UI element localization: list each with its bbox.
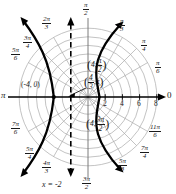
radial-tick-6: 6 [137, 100, 141, 108]
horizontal-axis [8, 93, 166, 100]
radial-tick-4: 4 [120, 100, 124, 108]
angle-label-pi-over-6: π 6 [155, 60, 161, 75]
angle-den: 3 [118, 165, 127, 173]
angle-label-4pi-over-3: 4π 3 [42, 160, 51, 175]
angle-den: 3 [119, 25, 125, 33]
angle-label-3pi-over-2: 3π 2 [82, 176, 91, 191]
angle-label-pi-over-4: π 4 [141, 38, 147, 53]
angle-label-11pi-over-6: 11π 6 [149, 124, 161, 139]
angle-num: π [83, 2, 89, 9]
angle-num: 3π [23, 35, 32, 42]
angle-den: 2 [83, 9, 89, 17]
angle-den: 3 [42, 23, 51, 31]
angle-num: 4π [42, 160, 51, 167]
radial-tick-2: 2 [103, 100, 107, 108]
axis-label-pi: π [1, 91, 6, 100]
angle-den: 4 [140, 152, 149, 160]
angle-label-5pi-over-3: 5π 3 [118, 158, 127, 173]
angle-num: 7π [140, 145, 149, 152]
point-label-vertex-left: (-4, 0) [21, 81, 40, 89]
point-theta-den: 2 [96, 124, 106, 133]
angle-label-5pi-over-4: 5π 4 [25, 146, 34, 161]
angle-num: 5π [11, 47, 20, 54]
polar-graph-figure: π 2 π 3 π 4 π 6 2π 3 3π 4 [0, 0, 176, 194]
angle-num: 3π [82, 176, 91, 183]
paren-close: ) [37, 80, 40, 89]
angle-label-5pi-over-6: 5π 6 [11, 47, 20, 62]
angle-den: 3 [42, 167, 51, 175]
polar-graph-canvas [0, 0, 176, 194]
paren-close: ) [105, 118, 109, 130]
angle-den: 2 [82, 183, 91, 191]
angle-num: 5π [25, 146, 34, 153]
angle-num: 2π [42, 16, 51, 23]
angle-num: 5π [118, 158, 127, 165]
angle-den: 4 [141, 45, 147, 53]
angle-label-pi-over-3: π 3 [119, 18, 125, 33]
angle-den: 6 [149, 131, 161, 139]
angle-num: π [119, 18, 125, 25]
axis-label-zero: 0 [167, 91, 172, 100]
paren-close: ) [99, 76, 103, 88]
vertex-left-dot [52, 95, 56, 99]
angle-den: 6 [155, 67, 161, 75]
paren-close: ) [102, 59, 106, 71]
angle-den: 4 [25, 153, 34, 161]
point-label-vertex-right: ( 4 3 , π) [84, 74, 103, 90]
angle-label-2pi-over-3: 2π 3 [42, 16, 51, 31]
point-theta-num: 3π [96, 116, 106, 124]
angle-num: 7π [11, 121, 20, 128]
angle-label-7pi-over-6: 7π 6 [11, 121, 20, 136]
angle-num: π [155, 60, 161, 67]
angle-label-pi-over-2: π 2 [83, 2, 89, 17]
angle-den: 6 [11, 54, 20, 62]
angle-label-3pi-over-4: 3π 4 [23, 35, 32, 50]
point-label-lower: (4, 3π 2 ) [86, 116, 109, 132]
angle-den: 4 [23, 42, 32, 50]
angle-num: 11π [149, 124, 161, 131]
angle-num: π [141, 38, 147, 45]
angle-den: 6 [11, 128, 20, 136]
directrix-equation-label: x = -2 [42, 181, 62, 189]
point-label-upper: (4, π 2 ) [87, 57, 106, 73]
radial-tick-8: 8 [154, 100, 158, 108]
angle-label-7pi-over-4: 7π 4 [140, 145, 149, 160]
